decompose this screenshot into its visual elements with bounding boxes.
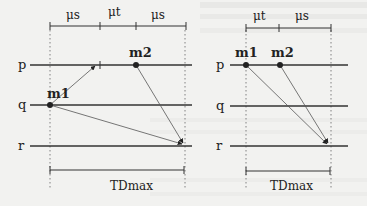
diagram-canvas: μs μt μs p q r m1 m2 TDmax bbox=[0, 0, 367, 206]
left-message-dot-m1 bbox=[47, 102, 53, 108]
left-process-label-q: q bbox=[18, 97, 26, 112]
right-scale-label-1: μt bbox=[253, 9, 266, 23]
right-scale-label-2: μs bbox=[295, 9, 309, 23]
right-duration-label: TDmax bbox=[270, 179, 313, 193]
background-bleed-text bbox=[150, 2, 367, 196]
left-scale-label-2: μt bbox=[108, 5, 121, 19]
left-duration-bar bbox=[50, 166, 184, 174]
right-diagram: μt μs p q r m1 m2 TDmax bbox=[216, 9, 348, 193]
left-process-label-r: r bbox=[18, 138, 25, 153]
right-duration-bar bbox=[246, 167, 330, 175]
left-duration-label: TDmax bbox=[110, 179, 153, 193]
left-diagram: μs μt μs p q r m1 m2 TDmax bbox=[18, 5, 192, 193]
right-message-label-m1: m1 bbox=[235, 45, 258, 60]
left-scale-bar bbox=[50, 22, 186, 30]
left-scale-label-1: μs bbox=[66, 8, 80, 22]
left-message-label-m2: m2 bbox=[129, 45, 152, 60]
left-process-label-p: p bbox=[18, 57, 26, 72]
right-process-label-p: p bbox=[216, 57, 224, 72]
left-message-arrow-m1-to-r bbox=[50, 105, 182, 144]
right-message-label-m2: m2 bbox=[271, 45, 294, 60]
left-message-label-m1: m1 bbox=[47, 86, 70, 101]
right-process-label-q: q bbox=[216, 98, 224, 113]
right-process-label-r: r bbox=[216, 138, 223, 153]
right-message-dot-m2 bbox=[277, 62, 283, 68]
left-scale-label-3: μs bbox=[151, 8, 165, 22]
right-message-dot-m1 bbox=[243, 62, 249, 68]
left-message-dot-m2 bbox=[133, 62, 139, 68]
